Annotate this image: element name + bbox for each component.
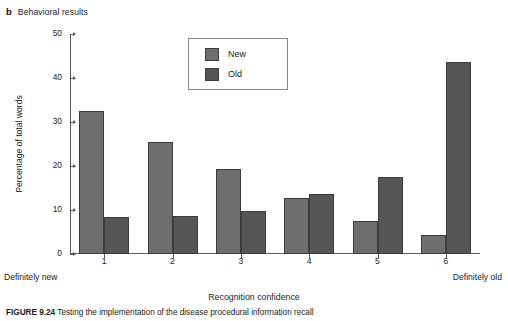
y-tick-mark (70, 166, 75, 168)
y-tick-label: 40 (53, 72, 62, 82)
bar-new-5 (353, 221, 378, 254)
x-tick-label: 6 (443, 256, 448, 266)
figure-panel: b Behavioral results Percentage of total… (0, 0, 508, 321)
figure-caption-text: Testing the implementation of the diseas… (57, 308, 313, 317)
panel-letter: b (6, 6, 12, 17)
y-tick-mark (70, 78, 75, 80)
legend-swatch-new (205, 48, 219, 61)
y-tick-mark (70, 34, 75, 36)
bar-new-4 (284, 198, 309, 254)
legend-item-new: New (205, 48, 287, 61)
x-tick-label: 2 (170, 256, 175, 266)
bar-new-6 (421, 235, 446, 254)
x-axis-anchor-right: Definitely old (453, 272, 502, 282)
y-tick-label: 10 (53, 204, 62, 214)
bar-old-4 (309, 194, 334, 254)
panel-header: b Behavioral results (6, 6, 88, 17)
figure-number: FIGURE 9.24 (6, 308, 55, 317)
figure-caption: FIGURE 9.24 Testing the implementation o… (6, 308, 506, 317)
y-tick-label: 0 (57, 248, 62, 258)
y-axis-line (70, 34, 71, 254)
panel-title: Behavioral results (18, 7, 88, 17)
bar-new-1 (79, 111, 104, 254)
chart-legend: New Old (188, 38, 288, 90)
bar-old-6 (446, 62, 471, 254)
legend-label-old: Old (228, 69, 242, 79)
bar-new-3 (216, 169, 241, 254)
y-tick-label: 20 (53, 160, 62, 170)
bar-old-1 (104, 217, 129, 254)
y-tick-label: 30 (53, 116, 62, 126)
bar-old-5 (378, 177, 403, 254)
legend-label-new: New (228, 49, 246, 59)
y-tick-mark (70, 122, 75, 124)
x-tick-label: 3 (238, 256, 243, 266)
x-tick-label: 5 (375, 256, 380, 266)
x-axis-anchor-left: Definitely new (4, 272, 58, 282)
bar-new-2 (148, 142, 173, 254)
legend-swatch-old (205, 68, 219, 81)
y-tick-label: 50 (53, 28, 62, 38)
legend-item-old: Old (205, 68, 287, 81)
y-tick-mark (70, 254, 75, 256)
bar-old-3 (241, 211, 266, 254)
bar-old-2 (173, 216, 198, 254)
x-axis-label: Recognition confidence (0, 292, 508, 302)
y-tick-mark (70, 210, 75, 212)
y-axis-label: Percentage of total words (14, 34, 26, 254)
x-tick-label: 1 (102, 256, 107, 266)
x-tick-label: 4 (307, 256, 312, 266)
x-axis-line (70, 253, 480, 254)
